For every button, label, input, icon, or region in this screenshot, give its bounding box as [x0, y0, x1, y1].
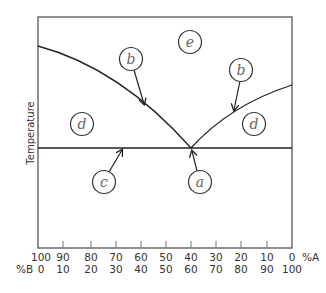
svg-text:e: e — [186, 34, 194, 50]
x-axis-ticks — [63, 241, 267, 248]
svg-text:50: 50 — [159, 251, 172, 263]
svg-text:10: 10 — [56, 263, 69, 275]
svg-text:40: 40 — [134, 263, 147, 275]
percent-b-label: %B — [16, 263, 33, 275]
svg-text:20: 20 — [84, 263, 97, 275]
arrow-c — [109, 150, 122, 172]
left-liquidus-curve — [38, 46, 191, 148]
svg-text:60: 60 — [134, 251, 147, 263]
x-axis-row-a: 100 90 80 70 60 50 40 30 20 10 0 — [31, 251, 295, 263]
arrow-a — [192, 151, 197, 171]
label-a: a — [189, 171, 212, 194]
label-b-left: b — [120, 48, 143, 71]
svg-text:70: 70 — [109, 251, 122, 263]
svg-text:100: 100 — [282, 263, 302, 275]
svg-text:100: 100 — [31, 251, 51, 263]
svg-text:70: 70 — [209, 263, 222, 275]
label-d-right: d — [243, 113, 266, 136]
svg-text:80: 80 — [84, 251, 97, 263]
svg-text:b: b — [127, 51, 136, 67]
label-c: c — [93, 171, 116, 194]
svg-text:60: 60 — [184, 263, 197, 275]
svg-text:a: a — [196, 174, 204, 190]
svg-text:d: d — [78, 116, 87, 132]
right-liquidus-curve — [191, 85, 292, 148]
svg-text:90: 90 — [56, 251, 69, 263]
y-axis-label: Temperature — [25, 101, 36, 165]
svg-text:30: 30 — [209, 251, 222, 263]
phase-diagram: Temperature 100 90 80 70 60 50 40 30 20 … — [0, 0, 326, 293]
svg-text:30: 30 — [109, 263, 122, 275]
svg-text:90: 90 — [260, 263, 273, 275]
x-axis-row-b: 0 10 20 30 40 50 60 70 80 90 100 — [38, 263, 302, 275]
label-d-left: d — [71, 113, 94, 136]
svg-text:10: 10 — [260, 251, 273, 263]
svg-text:d: d — [250, 116, 259, 132]
percent-a-label: %A — [302, 251, 320, 263]
svg-text:80: 80 — [234, 263, 247, 275]
svg-text:0: 0 — [38, 263, 45, 275]
svg-text:20: 20 — [234, 251, 247, 263]
svg-text:50: 50 — [159, 263, 172, 275]
label-b-right: b — [230, 59, 253, 82]
arrow-b-right — [234, 81, 240, 110]
svg-text:0: 0 — [289, 251, 296, 263]
svg-text:b: b — [237, 62, 246, 78]
svg-text:40: 40 — [184, 251, 197, 263]
label-e: e — [179, 31, 202, 54]
svg-text:c: c — [100, 174, 108, 190]
